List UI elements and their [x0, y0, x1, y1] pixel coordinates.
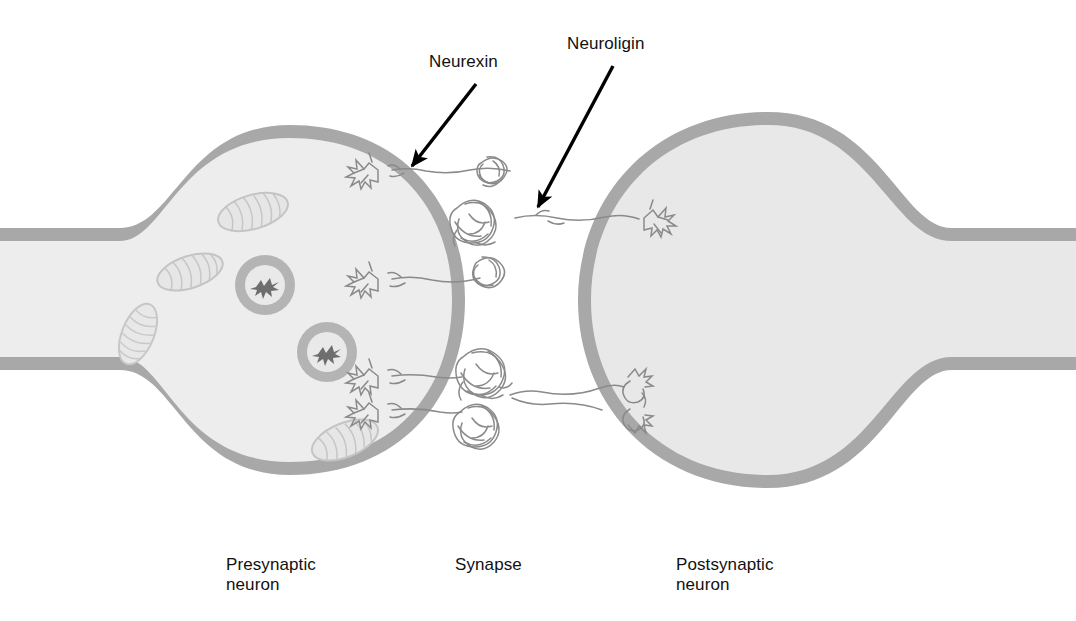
synapse-label: Synapse: [455, 555, 522, 575]
neuroligin-arrow: [538, 66, 613, 207]
protein-tangle: [477, 157, 507, 187]
protein-tangle: [456, 349, 512, 400]
postsynaptic-neuron: [578, 112, 1076, 488]
neurexin-arrow: [412, 84, 476, 166]
presynaptic-neuron-label: Presynaptic neuron: [226, 555, 316, 595]
annotation-arrows: [412, 66, 613, 207]
neurexin-label: Neurexin: [429, 52, 498, 72]
synaptic-vesicle: [235, 255, 295, 315]
postsynaptic-cytoplasm: [591, 125, 1076, 475]
protein-tangle: [450, 200, 496, 246]
presynaptic-cytoplasm: [0, 138, 452, 462]
protein-tangle: [473, 257, 505, 288]
synapse-diagram: [0, 0, 1076, 621]
presynaptic-neuron: [0, 125, 465, 475]
neuroligin-label: Neuroligin: [567, 34, 645, 54]
postsynaptic-neuron-label: Postsynaptic neuron: [676, 555, 774, 595]
figure-canvas: Neurexin Neuroligin Presynaptic neuron S…: [0, 0, 1076, 621]
protein-tangle: [453, 404, 499, 449]
